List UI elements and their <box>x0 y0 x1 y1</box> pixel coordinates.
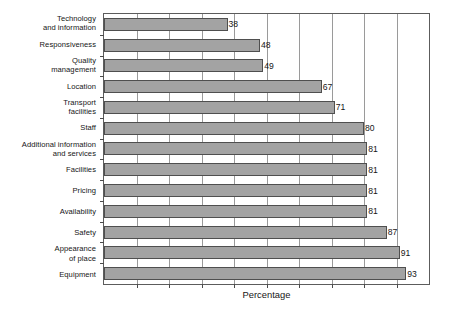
x-axis-tick <box>397 284 398 288</box>
category-label: Availability <box>0 201 100 222</box>
bar-value-label: 81 <box>368 186 378 196</box>
x-axis-tick <box>299 284 300 288</box>
category-label: Staff <box>0 118 100 139</box>
bar: 87 <box>104 226 387 239</box>
category-label: Technology and information <box>0 13 100 34</box>
plot-area: 38484967718081818181879193 <box>103 13 430 285</box>
x-axis-tick <box>332 284 333 288</box>
category-label: Pricing <box>0 180 100 201</box>
bar-value-label: 38 <box>229 19 239 29</box>
bar: 38 <box>104 18 228 31</box>
category-label: Responsiveness <box>0 34 100 55</box>
bar-row: 81 <box>104 201 429 222</box>
bar: 93 <box>104 267 406 280</box>
bar-row: 38 <box>104 14 429 35</box>
bar-row: 80 <box>104 118 429 139</box>
bar-value-label: 71 <box>336 102 346 112</box>
bar-row: 87 <box>104 222 429 243</box>
bar: 49 <box>104 59 263 72</box>
bar-row: 71 <box>104 97 429 118</box>
bar-row: 48 <box>104 35 429 56</box>
x-axis-tick <box>267 284 268 288</box>
bar-row: 81 <box>104 139 429 160</box>
bar-value-label: 80 <box>365 123 375 133</box>
bar-value-label: 67 <box>323 82 333 92</box>
bar-value-label: 81 <box>368 165 378 175</box>
bar-row: 81 <box>104 180 429 201</box>
bar: 81 <box>104 163 367 176</box>
bars-layer: 38484967718081818181879193 <box>104 14 429 284</box>
category-label: Safety <box>0 222 100 243</box>
x-axis-title: Percentage <box>103 289 430 300</box>
bar: 48 <box>104 39 260 52</box>
bar: 67 <box>104 80 322 93</box>
bar-value-label: 81 <box>368 144 378 154</box>
bar-row: 67 <box>104 76 429 97</box>
category-label: Appearance of place <box>0 243 100 264</box>
category-label: Location <box>0 76 100 97</box>
bar: 81 <box>104 184 367 197</box>
bar: 80 <box>104 122 364 135</box>
bar-value-label: 91 <box>401 248 411 258</box>
bar-value-label: 49 <box>264 61 274 71</box>
category-label: Quality management <box>0 55 100 76</box>
bar-value-label: 93 <box>407 269 417 279</box>
bar: 81 <box>104 205 367 218</box>
x-axis-tick <box>169 284 170 288</box>
bar: 71 <box>104 101 335 114</box>
bar-row: 91 <box>104 242 429 263</box>
x-axis-tick <box>364 284 365 288</box>
x-axis-tick <box>202 284 203 288</box>
bar-value-label: 48 <box>261 40 271 50</box>
x-axis-tick <box>137 284 138 288</box>
bar-value-label: 81 <box>368 206 378 216</box>
bar: 81 <box>104 142 367 155</box>
category-label: Equipment <box>0 264 100 285</box>
bar-row: 49 <box>104 56 429 77</box>
horizontal-bar-chart: Technology and informationResponsiveness… <box>0 0 452 313</box>
category-axis: Technology and informationResponsiveness… <box>0 13 100 285</box>
bar-row: 81 <box>104 159 429 180</box>
category-label: Facilities <box>0 159 100 180</box>
category-label: Transport facilities <box>0 97 100 118</box>
x-axis-tick <box>234 284 235 288</box>
bar: 91 <box>104 246 400 259</box>
bar-row: 93 <box>104 263 429 284</box>
category-label: Additional information and services <box>0 139 100 160</box>
bar-value-label: 87 <box>388 227 398 237</box>
